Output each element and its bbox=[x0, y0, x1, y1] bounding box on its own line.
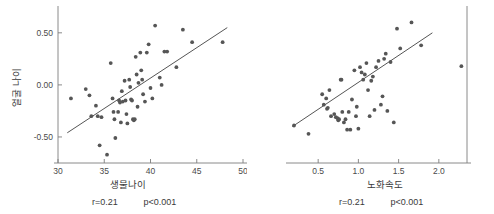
data-point bbox=[150, 97, 154, 101]
data-point bbox=[377, 59, 381, 63]
data-point bbox=[100, 115, 104, 119]
data-point bbox=[292, 124, 296, 128]
pvalue-annotation: p<0.001 bbox=[144, 197, 177, 207]
data-point bbox=[392, 120, 396, 124]
data-point bbox=[374, 65, 378, 69]
x-tick-label: 50 bbox=[238, 166, 247, 176]
y-axis-title: 얼굴 나이 bbox=[11, 68, 22, 107]
data-point bbox=[69, 97, 73, 101]
data-point bbox=[133, 117, 137, 121]
data-point bbox=[143, 100, 147, 104]
data-point bbox=[134, 55, 138, 59]
data-point bbox=[337, 117, 341, 121]
data-point bbox=[322, 103, 326, 107]
data-point bbox=[379, 103, 383, 107]
data-point bbox=[116, 110, 120, 114]
data-point bbox=[113, 117, 117, 121]
data-point bbox=[124, 99, 128, 103]
scatter-figure: 30354045500.500.00-0.50생물나이얼굴 나이r=0.21p<… bbox=[0, 0, 494, 214]
data-point bbox=[89, 114, 93, 118]
data-point bbox=[145, 51, 149, 55]
data-point bbox=[105, 153, 109, 157]
data-point bbox=[356, 127, 360, 131]
data-point bbox=[140, 78, 144, 82]
data-point bbox=[138, 51, 142, 55]
left-chart-panel: 30354045500.500.00-0.50생물나이얼굴 나이r=0.21p<… bbox=[0, 0, 247, 214]
y-tick-label: -0.50 bbox=[34, 132, 54, 142]
data-point bbox=[84, 87, 88, 91]
x-tick-label: 45 bbox=[192, 166, 202, 176]
data-point bbox=[355, 105, 359, 109]
data-point bbox=[149, 86, 153, 90]
data-point bbox=[130, 99, 134, 103]
data-point bbox=[326, 106, 330, 110]
x-tick-label: 35 bbox=[100, 166, 110, 176]
left-scatter-plot: 30354045500.500.00-0.50생물나이얼굴 나이r=0.21p<… bbox=[0, 0, 247, 214]
data-point bbox=[137, 81, 141, 85]
data-point bbox=[369, 79, 373, 83]
x-tick-label: 30 bbox=[53, 166, 63, 176]
data-point bbox=[98, 143, 102, 147]
data-point bbox=[136, 105, 140, 109]
x-tick-label: 1.5 bbox=[393, 166, 405, 176]
data-point bbox=[125, 112, 129, 116]
data-point bbox=[340, 78, 344, 82]
data-point bbox=[147, 42, 151, 46]
data-point bbox=[153, 24, 157, 28]
data-point bbox=[125, 122, 129, 126]
data-point bbox=[128, 85, 132, 89]
data-point bbox=[127, 78, 131, 82]
data-point bbox=[88, 93, 92, 97]
data-point bbox=[94, 104, 98, 108]
data-point bbox=[354, 114, 358, 118]
data-point bbox=[329, 114, 333, 118]
data-point bbox=[119, 120, 123, 124]
data-point bbox=[175, 65, 179, 69]
data-point bbox=[419, 43, 423, 47]
x-tick-label: 1.0 bbox=[352, 166, 364, 176]
data-point bbox=[96, 114, 100, 118]
data-point bbox=[347, 110, 351, 114]
x-axis-title: 생물나이 bbox=[110, 179, 146, 190]
data-point bbox=[160, 83, 164, 87]
x-tick-label: 0.5 bbox=[312, 166, 324, 176]
data-point bbox=[324, 97, 328, 101]
data-point bbox=[328, 88, 332, 92]
right-scatter-plot: 0.51.01.52.0노화속도r=0.21p<0.001 bbox=[247, 0, 494, 214]
correlation-annotation: r=0.21 bbox=[92, 197, 118, 207]
data-point bbox=[109, 61, 113, 65]
y-tick-label: 0.50 bbox=[36, 28, 53, 38]
right-chart-panel: 0.51.01.52.0노화속도r=0.21p<0.001 bbox=[247, 0, 494, 214]
data-point bbox=[381, 94, 385, 98]
data-point bbox=[459, 64, 463, 68]
x-tick-label: 2.0 bbox=[433, 166, 445, 176]
data-point bbox=[385, 109, 389, 113]
data-point bbox=[113, 136, 117, 140]
data-point bbox=[135, 73, 139, 77]
y-tick-label: 0.00 bbox=[36, 80, 53, 90]
data-point bbox=[139, 68, 143, 72]
data-point bbox=[360, 71, 364, 75]
data-point bbox=[389, 60, 393, 64]
data-point bbox=[141, 92, 145, 96]
data-point bbox=[123, 79, 127, 83]
data-point bbox=[366, 88, 370, 92]
data-point bbox=[181, 28, 185, 32]
data-point bbox=[158, 76, 162, 80]
data-point bbox=[320, 92, 324, 96]
data-point bbox=[410, 21, 414, 25]
data-points-group bbox=[69, 24, 225, 157]
data-point bbox=[395, 27, 399, 31]
data-point bbox=[382, 57, 386, 61]
data-point bbox=[340, 110, 344, 114]
data-point bbox=[398, 47, 402, 51]
data-point bbox=[384, 52, 388, 56]
data-point bbox=[190, 40, 194, 44]
data-point bbox=[373, 108, 377, 112]
data-point bbox=[368, 114, 372, 118]
data-point bbox=[221, 40, 225, 44]
data-point bbox=[350, 98, 354, 102]
data-point bbox=[352, 68, 356, 72]
data-point bbox=[361, 78, 365, 82]
data-point bbox=[365, 61, 369, 65]
